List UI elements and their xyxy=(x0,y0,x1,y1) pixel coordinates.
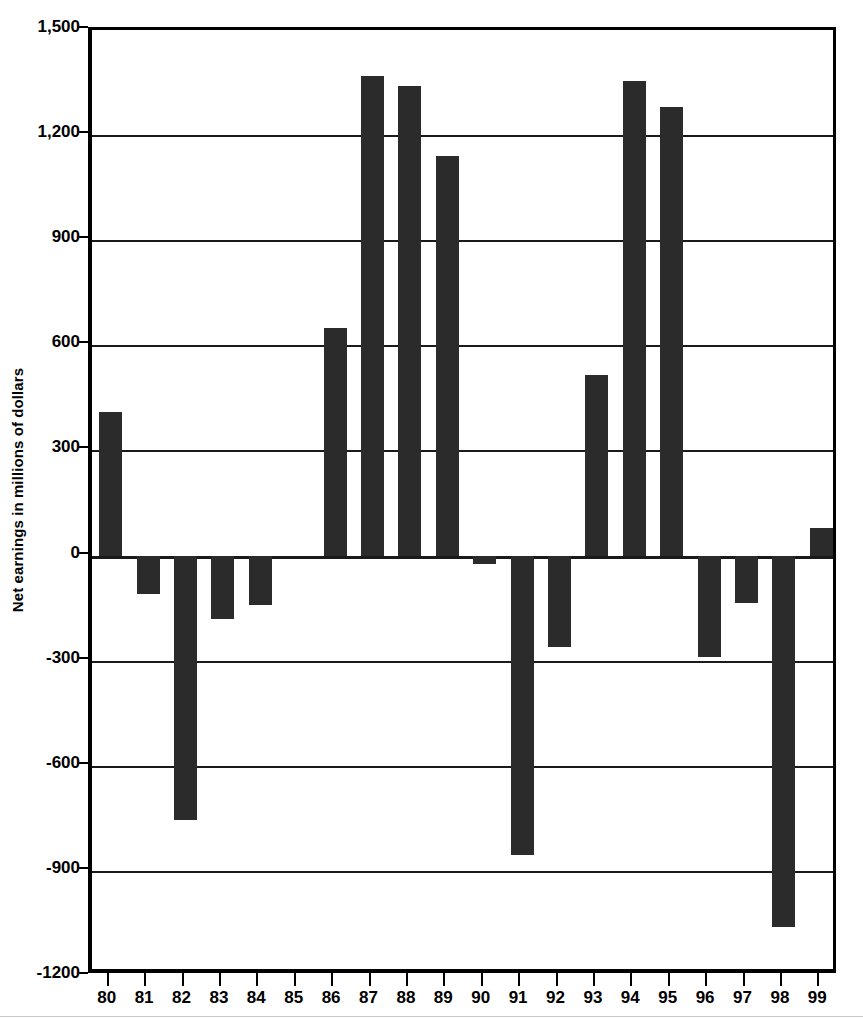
y-tick-mark xyxy=(78,972,88,974)
x-tick-label-94: 94 xyxy=(621,988,640,1008)
y-tick-mark xyxy=(78,236,88,238)
x-tick-mark-91 xyxy=(518,973,520,986)
x-tick-label-89: 89 xyxy=(434,988,453,1008)
x-tick-label-86: 86 xyxy=(322,988,341,1008)
x-tick-mark-86 xyxy=(331,973,333,986)
x-tick-mark-80 xyxy=(107,973,109,986)
x-tick-label-82: 82 xyxy=(172,988,191,1008)
y-tick-mark xyxy=(78,657,88,659)
y-tick-mark xyxy=(78,867,88,869)
x-tick-label-98: 98 xyxy=(770,988,789,1008)
x-axis-tick-marks xyxy=(88,973,836,987)
x-tick-mark-92 xyxy=(556,973,558,986)
x-tick-mark-93 xyxy=(593,973,595,986)
x-tick-label-93: 93 xyxy=(583,988,602,1008)
x-tick-label-80: 80 xyxy=(97,988,116,1008)
y-tick-label: 1,500 xyxy=(37,17,80,37)
bar-91 xyxy=(511,556,534,856)
bar-95 xyxy=(660,107,683,555)
bar-80 xyxy=(99,412,122,556)
y-tick-label: -1200 xyxy=(37,963,80,983)
page-bottom-rule xyxy=(0,1016,863,1017)
x-tick-mark-94 xyxy=(630,973,632,986)
y-axis-title-label: Net earnings in millions of dollars xyxy=(9,368,26,612)
x-tick-label-81: 81 xyxy=(135,988,154,1008)
y-axis-tick-labels: 1,5001,2009006003000-300-600-900-1200 xyxy=(24,0,86,1019)
y-tick-label: 300 xyxy=(52,437,80,457)
y-tick-label: 600 xyxy=(52,332,80,352)
x-tick-label-84: 84 xyxy=(247,988,266,1008)
x-tick-label-91: 91 xyxy=(509,988,528,1008)
bar-86 xyxy=(324,328,347,556)
x-tick-label-87: 87 xyxy=(359,988,378,1008)
x-tick-label-88: 88 xyxy=(396,988,415,1008)
plot-area xyxy=(88,27,836,973)
bar-97 xyxy=(735,556,758,603)
x-tick-mark-82 xyxy=(182,973,184,986)
y-tick-mark xyxy=(78,552,88,554)
x-tick-mark-96 xyxy=(705,973,707,986)
bar-84 xyxy=(249,556,272,605)
bar-88 xyxy=(398,86,421,555)
x-tick-mark-87 xyxy=(369,973,371,986)
bar-87 xyxy=(361,76,384,556)
x-tick-mark-89 xyxy=(443,973,445,986)
x-tick-mark-95 xyxy=(668,973,670,986)
x-tick-label-99: 99 xyxy=(808,988,827,1008)
bars-layer xyxy=(92,30,833,969)
y-tick-label: -900 xyxy=(46,858,80,878)
x-tick-mark-84 xyxy=(256,973,258,986)
y-tick-mark xyxy=(78,131,88,133)
y-tick-mark xyxy=(78,762,88,764)
bar-82 xyxy=(174,556,197,821)
bar-96 xyxy=(698,556,721,658)
bar-chart-figure: Net earnings in millions of dollars 1,50… xyxy=(0,0,863,1019)
x-tick-label-97: 97 xyxy=(733,988,752,1008)
y-tick-mark xyxy=(78,341,88,343)
x-tick-mark-88 xyxy=(406,973,408,986)
x-axis-tick-labels: 8081828384858687888990919293949596979899 xyxy=(88,988,836,1014)
y-tick-label: 1,200 xyxy=(37,122,80,142)
y-tick-mark xyxy=(78,446,88,448)
y-tick-label: -600 xyxy=(46,753,80,773)
bar-81 xyxy=(137,556,160,595)
bar-93 xyxy=(585,375,608,555)
x-tick-label-96: 96 xyxy=(696,988,715,1008)
x-tick-label-85: 85 xyxy=(284,988,303,1008)
bar-92 xyxy=(548,556,571,647)
y-tick-label: 900 xyxy=(52,227,80,247)
x-tick-mark-99 xyxy=(817,973,819,986)
bar-89 xyxy=(436,156,459,555)
bar-98 xyxy=(772,556,795,927)
x-tick-mark-90 xyxy=(481,973,483,986)
x-tick-label-95: 95 xyxy=(658,988,677,1008)
bar-99 xyxy=(810,528,833,556)
y-tick-label: -300 xyxy=(46,648,80,668)
y-tick-mark xyxy=(78,26,88,28)
bar-94 xyxy=(623,81,646,556)
x-tick-mark-85 xyxy=(294,973,296,986)
x-tick-mark-98 xyxy=(780,973,782,986)
x-tick-label-90: 90 xyxy=(471,988,490,1008)
x-tick-label-83: 83 xyxy=(209,988,228,1008)
bar-90 xyxy=(473,556,496,565)
x-tick-mark-97 xyxy=(743,973,745,986)
x-tick-label-92: 92 xyxy=(546,988,565,1008)
bar-83 xyxy=(211,556,234,619)
x-tick-mark-81 xyxy=(144,973,146,986)
x-tick-mark-83 xyxy=(219,973,221,986)
